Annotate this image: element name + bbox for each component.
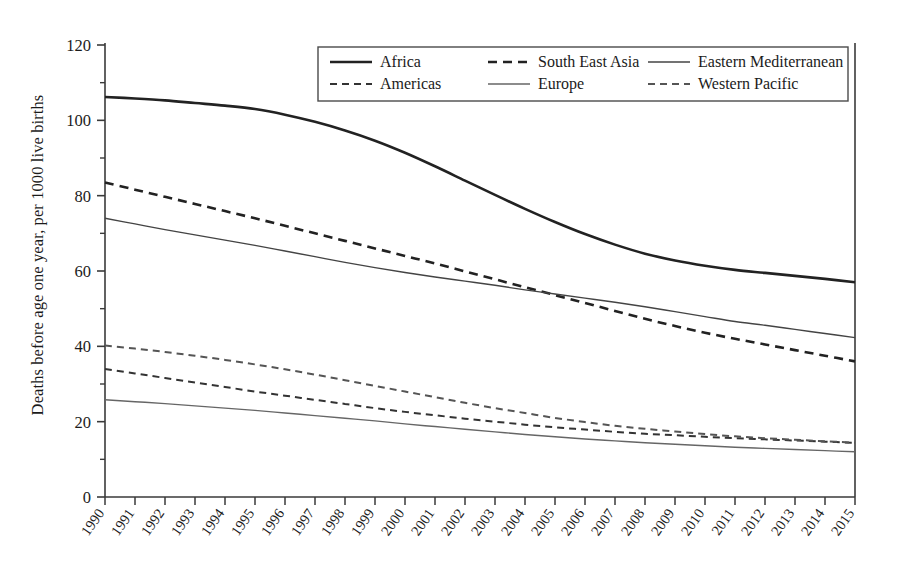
x-tick-label: 1995 [228,506,258,539]
y-tick-label: 20 [75,413,92,432]
x-tick-label: 2008 [618,506,648,539]
y-tick-label: 0 [83,488,91,507]
chart-svg: 020406080100120 199019911992199319941995… [0,0,899,577]
legend-label-western-pacific: Western Pacific [698,75,798,92]
chart-root: Deaths before age one year, per 1000 liv… [0,0,899,577]
legend-label-europe: Europe [538,75,584,93]
x-tick-label: 2001 [408,506,438,539]
x-tick-label: 2002 [438,506,468,539]
legend-label-africa: Africa [380,53,421,70]
x-tick-label: 2009 [648,506,678,539]
x-tick-label: 2003 [468,506,498,539]
x-tick-label: 1993 [168,506,198,539]
y-tick-label: 80 [75,187,92,206]
series-line-eastern-mediterranean [105,218,855,337]
x-tick-label: 1996 [258,506,288,539]
x-tick-label: 1992 [138,506,168,539]
series-line-americas [105,369,855,443]
legend: AfricaSouth East AsiaEastern Mediterrane… [318,47,848,101]
x-tick-label: 2014 [798,505,828,539]
x-tick-label: 1998 [318,506,348,539]
x-tick-label: 2007 [588,506,618,539]
x-axis-ticks: 1990199119921993199419951996199719981999… [78,497,858,538]
x-tick-label: 1999 [348,506,378,539]
series-lines [105,97,855,452]
y-tick-label: 40 [75,337,92,356]
plot-area: 020406080100120 199019911992199319941995… [0,0,899,577]
legend-label-south-east-asia: South East Asia [538,53,639,70]
series-line-western-pacific [105,346,855,443]
x-tick-label: 2012 [738,506,768,539]
x-tick-label: 2010 [678,506,708,539]
x-tick-label: 2015 [828,506,858,539]
x-tick-label: 1991 [108,506,138,539]
legend-label-americas: Americas [380,75,441,92]
x-tick-label: 2013 [768,506,798,539]
x-tick-label: 1994 [198,505,228,539]
x-tick-label: 1990 [78,506,108,539]
y-axis-ticks: 020406080100120 [66,36,105,507]
x-tick-label: 2005 [528,506,558,539]
series-line-africa [105,97,855,282]
x-tick-label: 2000 [378,506,408,539]
x-tick-label: 1997 [288,506,318,539]
x-tick-label: 2006 [558,506,588,539]
y-tick-label: 60 [75,262,92,281]
legend-label-eastern-mediterranean: Eastern Mediterranean [698,53,843,70]
x-tick-label: 2011 [708,506,737,538]
x-tick-label: 2004 [498,505,528,539]
y-tick-label: 100 [66,111,91,130]
y-tick-label: 120 [66,36,91,55]
series-line-europe [105,400,855,452]
